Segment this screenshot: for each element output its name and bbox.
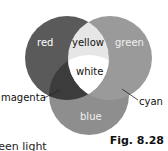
label-magenta: magenta xyxy=(1,92,46,103)
caption-fragment: reen light xyxy=(0,140,47,151)
label-red: red xyxy=(37,37,53,48)
color-venn-diagram: red yellow green white magenta cyan blue xyxy=(0,0,168,151)
label-white: white xyxy=(76,66,103,77)
label-green: green xyxy=(115,37,144,48)
label-blue: blue xyxy=(80,111,102,122)
label-yellow: yellow xyxy=(72,37,104,48)
label-cyan: cyan xyxy=(139,96,163,107)
figure-number: Fig. 8.28 xyxy=(110,134,164,147)
